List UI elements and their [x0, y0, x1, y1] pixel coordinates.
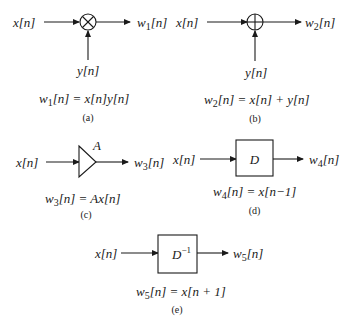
diagram-b-adder: x[n] w2[n] y[n] w2[n] = x[n] + y[n] (b)	[175, 14, 335, 125]
diagram-c-gain: x[n] A w3[n] w3[n] = Ax[n] (c)	[15, 138, 164, 221]
diagram-c-output-label: w3[n]	[134, 155, 164, 172]
diagram-c-caption: (c)	[80, 209, 91, 221]
diagram-d-output-label: w4[n]	[309, 152, 339, 169]
diagram-c-equation: w3[n] = Ax[n]	[45, 191, 121, 208]
diagram-e-equation: w5[n] = x[n + 1]	[136, 284, 226, 301]
diagram-e-advance: x[n] D−1 w5[n] w5[n] = x[n + 1] (e)	[94, 235, 263, 316]
diagram-b-equation: w2[n] = x[n] + y[n]	[204, 92, 310, 109]
multiplier-icon	[80, 14, 96, 30]
diagram-e-output-label: w5[n]	[233, 246, 263, 263]
diagram-a-multiplier: x[n] w1[n] y[n] w1[n] = x[n]y[n] (a)	[12, 14, 167, 124]
diagram-d-caption: (d)	[249, 205, 261, 217]
diagram-a-input-label: x[n]	[12, 15, 35, 30]
diagram-a-side-label: y[n]	[75, 63, 99, 78]
diagram-a-equation: w1[n] = x[n]y[n]	[39, 91, 129, 108]
diagram-b-output-label: w2[n]	[305, 15, 335, 32]
diagram-e-caption: (e)	[171, 304, 182, 316]
diagram-d-block-label: D	[249, 152, 260, 167]
diagram-d-equation: w4[n] = x[n−1]	[213, 184, 296, 201]
diagram-e-input-label: x[n]	[94, 246, 117, 261]
diagram-b-caption: (b)	[249, 113, 261, 125]
adder-icon	[247, 14, 263, 30]
diagram-b-side-label: y[n]	[243, 65, 267, 80]
diagram-b-input-label: x[n]	[175, 15, 198, 30]
diagram-c-input-label: x[n]	[15, 155, 38, 170]
diagram-a-output-label: w1[n]	[137, 15, 167, 32]
diagram-d-input-label: x[n]	[172, 152, 195, 167]
diagram-a-caption: (a)	[82, 112, 93, 124]
diagram-c-gain-label: A	[92, 138, 101, 153]
diagram-d-delay: x[n] D w4[n] w4[n] = x[n−1] (d)	[172, 140, 339, 217]
block-diagram-canvas: x[n] w1[n] y[n] w1[n] = x[n]y[n] (a) x[n…	[0, 0, 352, 326]
